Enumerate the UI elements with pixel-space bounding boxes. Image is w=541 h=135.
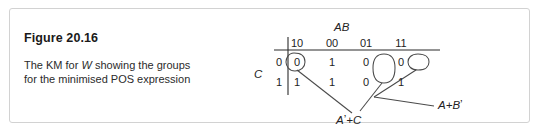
kmap-column-header-3: 11 [391,37,411,49]
screenshot-root: Figure 20.16 The KM for W showing the gr… [0,0,541,135]
caption-line1-pre: The KM for [24,59,81,71]
leader-line-to-a-plus-b-prime [374,97,434,106]
kmap-row-header-1: 1 [273,76,285,88]
kmap-column-header-2: 01 [356,37,376,49]
karnaugh-map: AB C 10 00 01 11 0 1 0 1 0 0 1 1 0 1 A’+… [248,13,538,135]
kmap-graphics [248,13,538,135]
kmap-cell-r1c1: 1 [325,76,339,88]
kmap-cell-r0c0: 0 [290,56,304,68]
figure-caption: The KM for W showing the groups for the … [24,59,239,86]
kmap-column-header-1: 00 [322,37,342,49]
figure-number: Figure 20.16 [24,31,239,45]
kmap-row-header-0: 0 [273,56,285,68]
kmap-column-variable-label: AB [334,21,349,33]
annotation-a-plus-b-prime-prime: ’ [460,98,463,110]
annotation-a-prime-plus-c-base: A [336,114,344,126]
annotation-a-plus-b-prime: A+B’ [438,99,463,112]
caption-block: Figure 20.16 The KM for W showing the gr… [24,31,239,86]
kmap-cell-r1c0: 1 [290,76,304,88]
kmap-cell-r1c2: 0 [359,76,373,88]
kmap-cell-r1c3: 1 [394,76,408,88]
annotation-a-prime-plus-c: A’+C [336,114,361,127]
kmap-cell-r0c1: 1 [325,56,339,68]
caption-line1: The KM for W showing the groups [24,59,190,71]
caption-line1-post: showing the groups [92,59,190,71]
kmap-cell-r0c3: 0 [394,56,408,68]
kmap-row-variable-label: C [254,68,262,80]
annotation-a-prime-plus-c-rest: +C [346,114,361,126]
group-oval-right-edge-right-half [418,54,429,70]
group-oval-column-01 [373,54,395,83]
caption-variable-w: W [81,59,91,71]
annotation-a-plus-b-prime-base: A+B [438,99,460,111]
kmap-column-header-0: 10 [287,37,307,49]
kmap-cell-r0c2: 0 [359,56,373,68]
figure-card: Figure 20.16 The KM for W showing the gr… [9,8,530,123]
annotation-a-prime-plus-c-prime: ’ [344,113,347,125]
caption-line2: for the minimised POS expression [24,73,190,85]
group-oval-right-edge-left-half [408,54,418,70]
